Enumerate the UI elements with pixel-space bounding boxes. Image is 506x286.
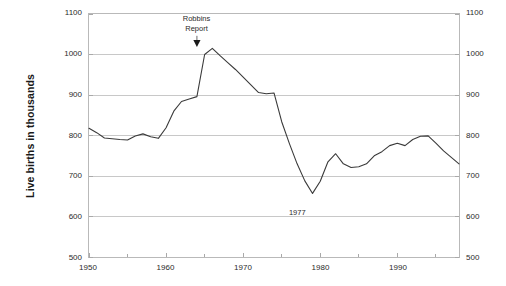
y-tick-label-right: 1100 — [466, 9, 506, 17]
data-line-series — [89, 14, 459, 257]
x-tick-label: 1970 — [223, 264, 263, 272]
y-tick-label-right: 500 — [466, 254, 506, 262]
annotation-robbins-report: Robbins Report — [168, 14, 226, 33]
y-tick-label-left: 500 — [42, 254, 82, 262]
x-tick-label: 1950 — [68, 264, 108, 272]
y-axis-title-container: Live births in thousands — [0, 0, 30, 286]
x-tick-label: 1990 — [378, 264, 418, 272]
y-tick-label-right: 800 — [466, 132, 506, 140]
annotation-1977: 1977 — [275, 208, 319, 218]
y-tick-label-right: 700 — [466, 172, 506, 180]
y-tick-label-right: 1000 — [466, 50, 506, 58]
plot-area — [88, 13, 460, 258]
y-tick-label-left: 1000 — [42, 50, 82, 58]
chart-figure: Live births in thousands 110010009008007… — [0, 0, 506, 286]
y-axis-title: Live births in thousands — [24, 26, 36, 246]
y-tick-label-left: 1100 — [42, 9, 82, 17]
y-tick-label-left: 900 — [42, 91, 82, 99]
y-tick-label-right: 600 — [466, 213, 506, 221]
y-tick-label-left: 600 — [42, 213, 82, 221]
x-tick-label: 1960 — [146, 264, 186, 272]
y-tick-label-left: 800 — [42, 132, 82, 140]
x-tick-label: 1980 — [301, 264, 341, 272]
y-tick-label-left: 700 — [42, 172, 82, 180]
y-tick-label-right: 900 — [466, 91, 506, 99]
